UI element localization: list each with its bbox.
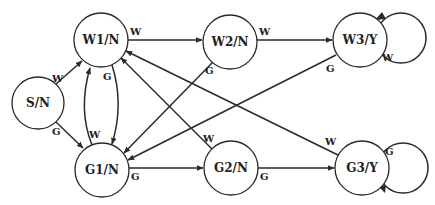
edge-label-w1-g1: G: [103, 71, 112, 82]
node-label: S/N: [26, 96, 50, 110]
edge-label-w1-w2: W: [129, 26, 142, 37]
edge-w1-to-g1: [112, 65, 118, 144]
edge-label-g1-g2: G: [131, 171, 140, 182]
node-label: W1/N: [81, 33, 119, 47]
edge-label-g2-g3: G: [260, 171, 269, 182]
node-label: G1/N: [85, 163, 119, 177]
node-w2: W2/N: [203, 15, 257, 69]
node-label: W3/Y: [342, 33, 378, 47]
edge-label-w3-g1: G: [326, 63, 335, 74]
diagram-svg: S/N W1/N G1/N W2/N G2/N W3/Y G3/Y W G W …: [0, 0, 435, 205]
edge-label-w3-self: W: [381, 52, 394, 63]
edge-label-g2-w1: W: [202, 133, 215, 144]
node-g2: G2/N: [204, 141, 258, 195]
node-w1: W1/N: [74, 13, 128, 67]
node-label: G3/Y: [346, 161, 378, 175]
state-diagram: S/N W1/N G1/N W2/N G2/N W3/Y G3/Y W G W …: [0, 0, 435, 205]
edge-label-g1-w1: W: [88, 129, 101, 140]
node-label: W2/N: [210, 35, 248, 49]
edge-label-w2-w3: W: [258, 26, 271, 37]
node-g3: G3/Y: [335, 141, 389, 195]
edge-label-g3-self: G: [385, 146, 394, 157]
node-label: G2/N: [214, 161, 248, 175]
edge-label-w2-g1: G: [205, 65, 214, 76]
node-s: S/N: [12, 77, 64, 129]
node-w3: W3/Y: [333, 13, 387, 67]
node-g1: G1/N: [75, 143, 129, 197]
edge-label-s-g1: G: [52, 126, 61, 137]
edge-label-s-w1: W: [51, 73, 64, 84]
edge-label-g3-w1: W: [324, 136, 337, 147]
